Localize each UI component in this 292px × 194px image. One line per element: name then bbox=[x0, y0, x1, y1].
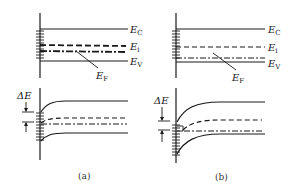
panel-b-delta-e-label: ΔE bbox=[153, 95, 169, 106]
panel-b-delta-e-arrow-down bbox=[160, 117, 164, 121]
panel-a-delta-e-label: ΔE bbox=[16, 90, 32, 101]
panel-a-delta-e-arrow-down bbox=[24, 108, 28, 112]
panel-a-delta-e-marker bbox=[22, 102, 34, 132]
panel-a-top-band-diagram bbox=[36, 13, 128, 78]
svg-text:EC: EC bbox=[267, 24, 281, 37]
panel-a-top-ef-line bbox=[40, 51, 126, 52]
panel-b-top-labels: EC Ei EV EF bbox=[231, 24, 281, 85]
panel-b-bottom-ec-curve bbox=[177, 102, 265, 122]
panel-b-top-band-diagram bbox=[172, 13, 265, 78]
panel-a-delta-e-arrow-up bbox=[24, 122, 28, 126]
svg-text:EF: EF bbox=[95, 70, 108, 83]
svg-text:Ei: Ei bbox=[129, 41, 140, 54]
panel-a-top-ef-leader bbox=[76, 51, 98, 68]
panel-a-caption: (a) bbox=[78, 171, 90, 181]
panel-b-bottom-ei-curve bbox=[183, 120, 262, 130]
svg-text:EC: EC bbox=[129, 24, 143, 37]
panel-b-delta-e-arrow-up bbox=[160, 130, 164, 134]
svg-text:EV: EV bbox=[267, 58, 281, 71]
panel-a-bottom-ei-curve bbox=[41, 118, 127, 123]
panel-b-caption: (b) bbox=[215, 172, 228, 182]
panel-a-top-ei-line bbox=[40, 45, 126, 46]
panel-a-top-labels: EC Ei EV EF bbox=[95, 24, 143, 83]
svg-text:Ei: Ei bbox=[267, 42, 278, 55]
panel-b-bottom-surface-state-box bbox=[177, 126, 183, 131]
panel-b-bottom-band-bending bbox=[158, 88, 265, 163]
panel-a-bottom-ec-curve bbox=[41, 101, 128, 112]
svg-text:EF: EF bbox=[231, 72, 244, 85]
svg-text:EV: EV bbox=[129, 56, 143, 69]
band-diagram-figure: EC Ei EV EF ΔE (a) bbox=[0, 0, 292, 194]
panel-a-bottom-ev-curve bbox=[41, 133, 128, 141]
panel-a-bottom-band-bending bbox=[22, 88, 128, 160]
panel-b-bottom-ev-curve bbox=[177, 134, 265, 154]
panel-b-delta-e-marker bbox=[158, 107, 170, 142]
